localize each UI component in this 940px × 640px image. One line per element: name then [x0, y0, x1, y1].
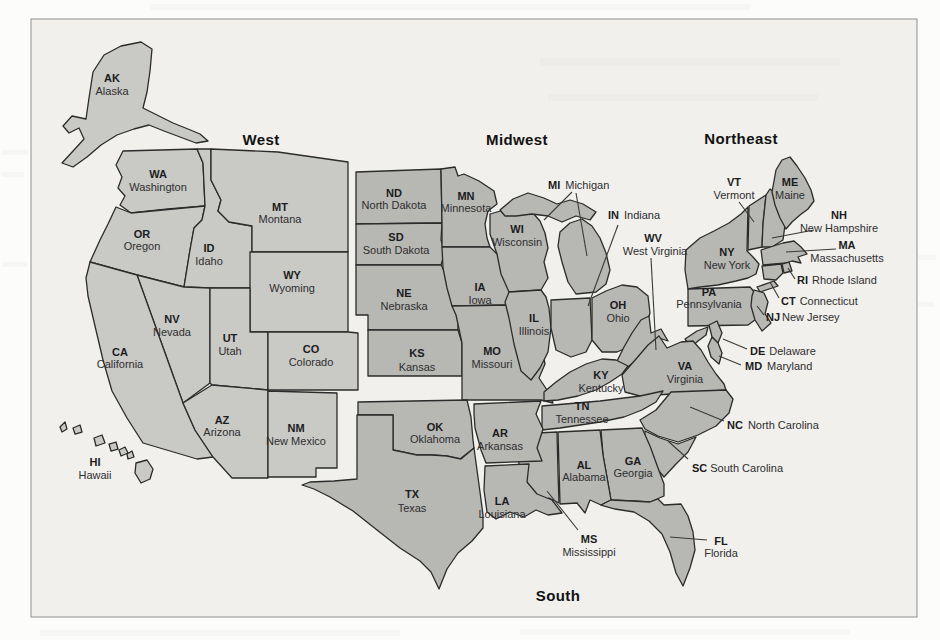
state-abbr: RI	[797, 274, 808, 286]
state-nm	[268, 391, 337, 477]
bleed-smudge	[150, 4, 750, 10]
state-name: South Carolina	[710, 462, 784, 474]
state-label-oh: OHOhio	[606, 299, 629, 324]
state-name: Rhode Island	[812, 274, 877, 286]
state-name: Montana	[259, 213, 303, 225]
state-in	[551, 298, 592, 357]
state-abbr: LA	[495, 495, 510, 507]
state-label-md: MDMaryland	[745, 360, 812, 372]
state-name: West Virginia	[623, 245, 688, 257]
state-abbr: MD	[745, 360, 762, 372]
state-name: Idaho	[195, 255, 223, 267]
state-name: Oklahoma	[410, 433, 461, 445]
state-name: Georgia	[613, 467, 653, 479]
state-name: Delaware	[769, 345, 815, 357]
state-name: Tennessee	[555, 413, 608, 425]
state-abbr: DE	[750, 345, 765, 357]
bleed-smudge	[918, 302, 934, 307]
state-abbr: CT	[781, 295, 796, 307]
state-abbr: NE	[396, 287, 411, 299]
bleed-smudge	[40, 630, 400, 636]
state-name: Pennsylvania	[676, 298, 742, 310]
state-name: South Dakota	[363, 244, 431, 256]
state-name: Wisconsin	[492, 236, 542, 248]
state-abbr: VA	[678, 360, 693, 372]
state-label-in: INIndiana	[608, 209, 661, 221]
state-abbr: KS	[409, 347, 424, 359]
state-name: Minnesota	[441, 202, 493, 214]
state-name: Indiana	[624, 209, 661, 221]
bleed-smudge	[520, 629, 850, 635]
bleed-smudge	[2, 150, 28, 155]
state-label-sc: SCSouth Carolina	[692, 462, 784, 474]
bleed-smudge	[918, 255, 936, 260]
state-abbr: HI	[90, 456, 101, 468]
state-abbr: WV	[644, 232, 662, 244]
state-label-mi: MIMichigan	[548, 179, 609, 191]
region-title-midwest: Midwest	[486, 131, 548, 148]
us-regions-map-figure: West Midwest Northeast South AKAlaska HI…	[0, 0, 940, 640]
region-title-south: South	[536, 587, 581, 604]
state-name: Florida	[704, 547, 739, 559]
state-name: Utah	[218, 345, 241, 357]
state-name: Alaska	[95, 85, 129, 97]
state-abbr: GA	[625, 455, 642, 467]
bleed-smudge	[2, 172, 24, 177]
state-abbr: ND	[386, 187, 402, 199]
state-abbr: ID	[204, 242, 215, 254]
region-title-northeast: Northeast	[704, 130, 778, 147]
state-abbr: NV	[164, 313, 180, 325]
state-abbr: NC	[727, 419, 743, 431]
state-label-nc: NCNorth Carolina	[727, 419, 820, 431]
state-name: Illinois	[519, 325, 550, 337]
state-label-nj: NJNew Jersey	[766, 311, 840, 323]
state-name: Wyoming	[269, 282, 315, 294]
state-name: California	[97, 358, 144, 370]
state-abbr: CO	[303, 343, 320, 355]
state-abbr: WY	[283, 269, 301, 281]
state-abbr: FL	[714, 535, 728, 547]
state-name: Nevada	[153, 326, 192, 338]
state-abbr: VT	[727, 176, 741, 188]
state-abbr: SD	[388, 231, 403, 243]
state-abbr: MI	[548, 179, 560, 191]
state-name: Louisiana	[478, 508, 526, 520]
state-name: Michigan	[565, 179, 609, 191]
state-name: Massachusetts	[810, 252, 884, 264]
state-abbr: ME	[782, 176, 799, 188]
state-abbr: MO	[483, 345, 501, 357]
state-abbr: UT	[223, 332, 238, 344]
state-name: Arizona	[203, 426, 241, 438]
bleed-smudge	[3, 262, 27, 267]
scanned-page: West Midwest Northeast South AKAlaska HI…	[0, 0, 940, 640]
state-name: Maryland	[767, 360, 812, 372]
state-abbr: IA	[475, 281, 486, 293]
state-name: North Dakota	[362, 199, 428, 211]
state-abbr: WI	[510, 223, 523, 235]
state-name: Arkansas	[477, 440, 523, 452]
state-abbr: MN	[457, 190, 474, 202]
state-name: Nebraska	[380, 300, 428, 312]
state-abbr: NY	[719, 246, 735, 258]
state-name: Virginia	[667, 373, 704, 385]
state-abbr: NJ	[766, 311, 780, 323]
state-abbr: MS	[581, 533, 598, 545]
state-abbr: TN	[575, 400, 590, 412]
state-name: Washington	[129, 181, 187, 193]
state-abbr: MA	[838, 239, 855, 251]
state-abbr: PA	[702, 286, 717, 298]
state-name: Ohio	[606, 312, 629, 324]
state-abbr: OR	[134, 228, 151, 240]
state-abbr: AK	[104, 72, 120, 84]
state-name: Maine	[775, 189, 805, 201]
state-name: Connecticut	[800, 295, 858, 307]
state-name: New Mexico	[266, 435, 326, 447]
bleed-smudge	[540, 58, 840, 66]
state-abbr: WA	[149, 168, 167, 180]
state-abbr: NM	[287, 422, 304, 434]
state-abbr: TX	[405, 488, 420, 500]
state-abbr: OK	[427, 421, 444, 433]
state-abbr: IL	[529, 312, 539, 324]
state-label-ct: CTConnecticut	[781, 295, 858, 307]
state-abbr: OH	[610, 299, 627, 311]
